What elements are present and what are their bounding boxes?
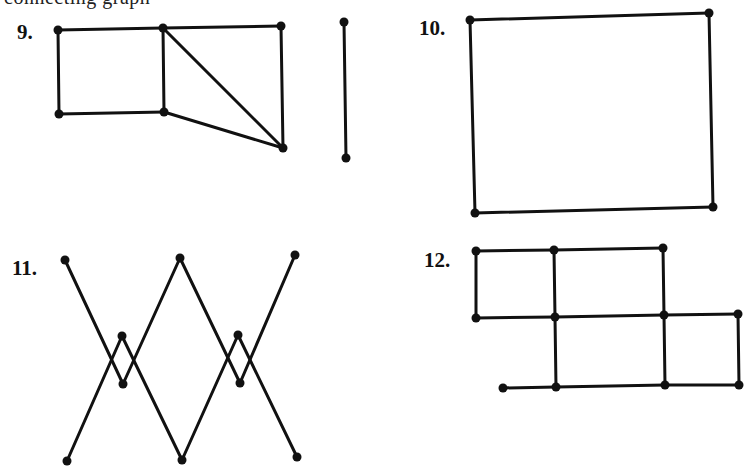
- graph-edge: [664, 315, 665, 385]
- graph-figure-9: [54, 18, 351, 163]
- graph-vertex: [55, 110, 64, 119]
- graph-edge: [163, 28, 164, 112]
- graph-figure-11: [61, 251, 302, 466]
- graph-vertex: [234, 331, 243, 340]
- graph-vertex: [552, 383, 561, 392]
- graph-edge: [738, 314, 739, 385]
- graph-edge: [163, 26, 281, 28]
- graph-figures: [0, 0, 747, 476]
- graph-vertex: [61, 256, 70, 265]
- graph-edge: [67, 336, 122, 461]
- graph-vertex: [277, 22, 286, 31]
- graph-vertex: [734, 310, 743, 319]
- graph-vertex: [279, 144, 288, 153]
- graph-edge: [180, 258, 240, 383]
- graph-vertex: [340, 18, 349, 27]
- graph-edge: [344, 22, 346, 158]
- graph-edge: [554, 248, 663, 250]
- graph-edge: [238, 335, 297, 457]
- graph-figure-10: [466, 9, 718, 218]
- graph-edge: [470, 20, 475, 213]
- graph-edge: [65, 260, 123, 384]
- graph-edge: [556, 385, 665, 387]
- graph-edge: [475, 207, 713, 213]
- graph-vertex: [176, 254, 185, 263]
- graph-edge: [123, 258, 180, 384]
- graph-edge: [555, 317, 556, 387]
- graph-edge: [476, 250, 554, 251]
- graph-vertex: [54, 26, 63, 35]
- graph-vertex: [499, 384, 508, 393]
- graph-vertex: [342, 154, 351, 163]
- graph-vertex: [472, 247, 481, 256]
- graph-vertex: [659, 244, 668, 253]
- graph-vertex: [472, 314, 481, 323]
- graph-edge: [58, 30, 59, 114]
- graph-vertex: [550, 246, 559, 255]
- graph-vertex: [709, 203, 718, 212]
- graph-edge: [182, 335, 238, 460]
- graph-vertex: [660, 311, 669, 320]
- graph-vertex: [471, 209, 480, 218]
- graph-vertex: [160, 108, 169, 117]
- graph-vertex: [466, 16, 475, 25]
- graph-edge: [281, 26, 283, 148]
- graph-vertex: [705, 9, 714, 18]
- graph-edge: [503, 387, 556, 388]
- graph-vertex: [63, 457, 72, 466]
- graph-edge: [476, 317, 555, 318]
- graph-vertex: [236, 379, 245, 388]
- graph-vertex: [178, 456, 187, 465]
- graph-vertex: [551, 313, 560, 322]
- graph-edge: [554, 250, 555, 317]
- graph-vertex: [661, 381, 670, 390]
- graph-figure-12: [472, 244, 744, 393]
- graph-edge: [58, 28, 163, 30]
- graph-edge: [59, 112, 164, 114]
- graph-edge: [663, 248, 664, 315]
- graph-edge: [664, 314, 738, 315]
- graph-edge: [122, 336, 182, 460]
- graph-vertex: [291, 251, 300, 260]
- graph-vertex: [118, 332, 127, 341]
- graph-edge: [555, 315, 664, 317]
- graph-edge: [470, 13, 709, 20]
- graph-edge: [709, 13, 713, 207]
- graph-edge: [240, 255, 295, 383]
- graph-vertex: [119, 380, 128, 389]
- graph-vertex: [159, 24, 168, 33]
- graph-vertex: [735, 381, 744, 390]
- graph-vertex: [293, 453, 302, 462]
